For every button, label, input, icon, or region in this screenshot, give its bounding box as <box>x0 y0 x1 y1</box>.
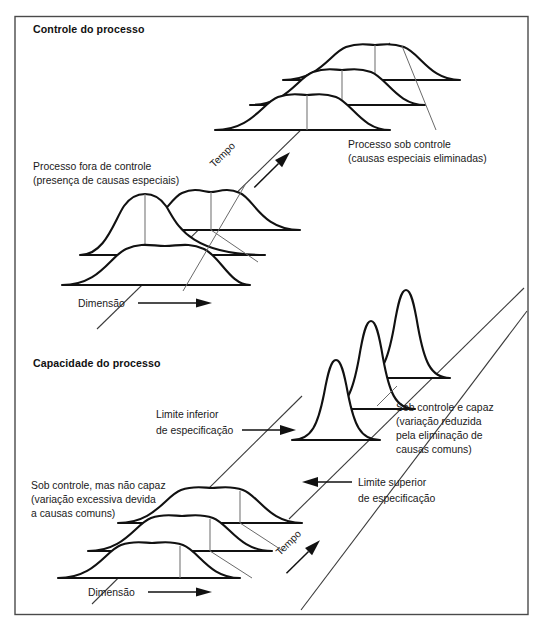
lead-line-out-of-control-2 <box>211 230 258 262</box>
curve-group-in-control <box>215 44 460 130</box>
label-in-control-line2: (causas especiais eliminadas) <box>348 153 487 164</box>
label-not-capable-line2: (variação excessiva devida <box>31 494 156 505</box>
axis-label-tempo-bottom: Tempo <box>274 528 304 558</box>
label-upper-spec-line1: Limite superior <box>358 477 427 488</box>
curve-group-out-of-control <box>62 190 300 285</box>
dimension-arrow-bottom <box>148 588 212 597</box>
label-in-control-line1: Processo sob controle <box>348 139 451 150</box>
tempo-arrow-top <box>251 149 294 191</box>
axis-label-tempo-top: Tempo <box>208 140 238 170</box>
section-title-process-control: Controle do processo <box>33 23 145 35</box>
label-capable-line2: (variação reduzida <box>396 416 482 427</box>
process-control-capability-figure: Controle do processo Capacidade do proce… <box>0 0 544 630</box>
label-capable-line4: causas comuns) <box>396 444 472 455</box>
label-lower-spec-line2: de especificação <box>156 425 234 436</box>
label-capable-line1: Sob controle e capaz <box>396 402 494 413</box>
diagram-canvas: Controle do processo Capacidade do proce… <box>0 0 544 630</box>
label-lower-spec-line1: Limite inferior <box>156 409 219 420</box>
label-upper-spec-line2: de especificação <box>358 493 436 504</box>
label-capable-line3: pela eliminação de <box>396 430 483 441</box>
lower-spec-arrow <box>242 425 296 435</box>
axis-label-dimension-top: Dimensão <box>78 298 125 309</box>
label-not-capable-line1: Sob controle, mas não capaz <box>31 480 166 491</box>
label-out-of-control-line2: (presença de causas especiais) <box>33 175 179 186</box>
dimension-arrow-top <box>138 299 212 308</box>
label-not-capable-line3: a causas comuns) <box>31 508 115 519</box>
section-title-process-capability: Capacidade do processo <box>33 357 161 369</box>
axis-label-dimension-bottom: Dimensão <box>88 587 135 598</box>
upper-spec-arrow <box>302 477 352 487</box>
label-out-of-control-line1: Processo fora de controle <box>33 161 152 172</box>
